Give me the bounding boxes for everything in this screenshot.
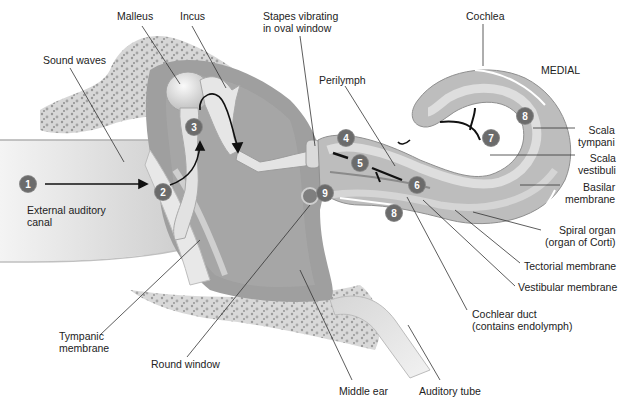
step-marker-8-lower: 8 xyxy=(386,205,402,221)
step-marker-5: 5 xyxy=(352,155,368,171)
step-marker-7: 7 xyxy=(483,130,499,146)
label-basilar-membrane: Basilar membrane xyxy=(565,181,615,205)
step-marker-2: 2 xyxy=(155,184,171,200)
label-cochlea: Cochlea xyxy=(466,10,505,22)
label-tympanic-membrane: Tympanic membrane xyxy=(59,330,109,354)
step-marker-4: 4 xyxy=(338,130,354,146)
label-middle-ear: Middle ear xyxy=(339,385,388,397)
cochlea-shape xyxy=(302,70,571,224)
label-sound-waves: Sound waves xyxy=(43,54,106,66)
step-marker-1: 1 xyxy=(20,176,36,192)
label-tectorial-membrane: Tectorial membrane xyxy=(524,260,616,272)
label-medial: MEDIAL xyxy=(541,64,580,76)
label-vestibular-membrane: Vestibular membrane xyxy=(518,281,617,293)
label-stapes: Stapes vibrating in oval window xyxy=(263,10,338,34)
label-spiral-organ: Spiral organ (organ of Corti) xyxy=(545,224,616,248)
label-scala-tympani: Scala tympani xyxy=(578,124,615,148)
step-marker-6: 6 xyxy=(409,177,425,193)
label-incus: Incus xyxy=(180,10,205,22)
label-malleus: Malleus xyxy=(117,10,153,22)
label-cochlear-duct: Cochlear duct (contains endolymph) xyxy=(472,308,572,332)
label-auditory-tube: Auditory tube xyxy=(419,385,481,397)
label-round-window: Round window xyxy=(151,358,220,370)
step-marker-3: 3 xyxy=(186,119,202,135)
ear-anatomy-diagram: Malleus Incus Stapes vibrating in oval w… xyxy=(0,0,628,404)
step-marker-8-upper: 8 xyxy=(517,108,533,124)
label-scala-vestibuli: Scala vestibuli xyxy=(578,152,616,176)
label-perilymph: Perilymph xyxy=(319,74,366,86)
step-marker-9: 9 xyxy=(317,185,333,201)
label-external-auditory-canal: External auditory canal xyxy=(27,204,106,228)
